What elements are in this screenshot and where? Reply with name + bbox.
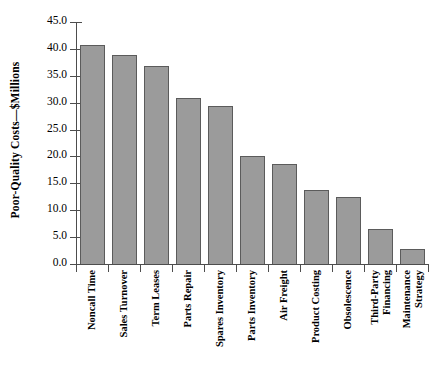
x-axis-label-text: Term Leases [150, 270, 162, 326]
x-axis-label-text: MaintenanceStrategy [401, 270, 424, 328]
bar [336, 197, 361, 264]
y-axis-title-text: Poor-Quality Costs—$Millions [9, 62, 21, 219]
bar-chart: Poor-Quality Costs—$Millions 45.040.035.… [0, 0, 447, 369]
bar [112, 55, 137, 264]
bar [176, 98, 201, 264]
x-axis-label: Obsolescence [332, 266, 364, 366]
y-axis-tick-label: 5.0 [53, 229, 67, 241]
y-axis-tick-label: 15.0 [47, 175, 67, 187]
x-axis-line [76, 264, 428, 265]
y-axis-tick-label: 45.0 [47, 14, 67, 26]
bar [208, 106, 233, 264]
x-axis-label: Term Leases [140, 266, 172, 366]
y-axis-tick-label: 0.0 [53, 256, 67, 268]
bar [240, 156, 265, 264]
x-axis-label: Noncall Time [76, 266, 108, 366]
bar [272, 164, 297, 264]
bar [304, 190, 329, 264]
x-axis-tick-mark [428, 264, 429, 272]
bar [368, 229, 393, 264]
x-axis-label-text: Spares Inventory [214, 270, 226, 347]
x-axis-label: Spares Inventory [204, 266, 236, 366]
x-axis-label-text: Air Freight [278, 270, 290, 321]
x-axis-label: Parts Inventory [236, 266, 268, 366]
x-axis-labels: Noncall TimeSales TurnoverTerm LeasesPar… [76, 266, 428, 369]
bar [144, 66, 169, 264]
x-axis-label-text: Sales Turnover [118, 270, 130, 337]
y-axis-tick-label: 20.0 [47, 148, 67, 160]
x-axis-label-text: Noncall Time [86, 270, 98, 330]
y-axis-tick-label: 25.0 [47, 122, 67, 134]
x-axis-label: Third-PartyFinancing [364, 266, 396, 366]
x-axis-label: MaintenanceStrategy [396, 266, 428, 366]
y-axis-tick-label: 40.0 [47, 41, 67, 53]
y-axis-title: Poor-Quality Costs—$Millions [0, 0, 30, 280]
bars-layer [76, 22, 428, 264]
x-axis-label: Parts Repair [172, 266, 204, 366]
plot-area: 45.040.035.030.025.020.015.010.05.00.0 [76, 22, 428, 264]
bar [400, 249, 425, 264]
x-axis-label: Air Freight [268, 266, 300, 366]
y-axis-tick-label: 30.0 [47, 95, 67, 107]
bar [80, 45, 105, 264]
x-axis-label: Sales Turnover [108, 266, 140, 366]
x-axis-label-text: Third-PartyFinancing [369, 270, 392, 325]
x-axis-label-text: Parts Inventory [246, 270, 258, 341]
x-axis-label-text: Product Costing [310, 270, 322, 343]
y-axis-tick-label: 10.0 [47, 202, 67, 214]
x-axis-label: Product Costing [300, 266, 332, 366]
x-axis-label-text: Parts Repair [182, 270, 194, 327]
x-axis-label-text: Obsolescence [342, 270, 354, 330]
y-axis-tick-label: 35.0 [47, 68, 67, 80]
